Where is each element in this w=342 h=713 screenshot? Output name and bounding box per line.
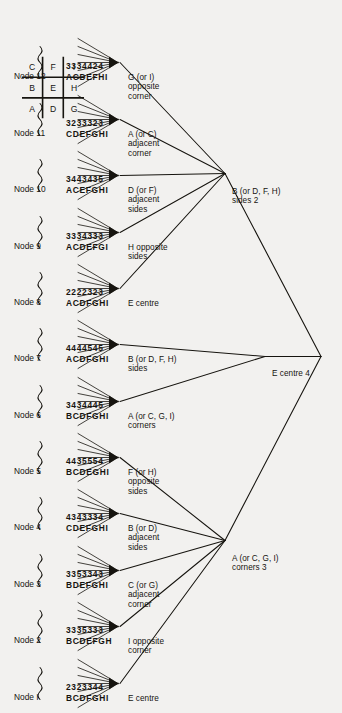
leaf-letters-4: CDEFGHI — [66, 523, 109, 533]
leaf-numbers-9: 3334333 — [66, 231, 104, 241]
grid-cell-A: A — [22, 98, 42, 118]
leaf-letters-11: CDEFGHI — [66, 129, 109, 139]
leaf-numbers-6: 3434445 — [66, 400, 104, 410]
leaf-letters-6: BCDFGHI — [66, 411, 109, 421]
leaf-node-name-11: Node 11 — [14, 127, 45, 137]
leaf-node-name-1: Node I — [14, 691, 39, 701]
leaf-node-name-12: Node 12 — [14, 70, 46, 80]
leaf-letters-2: BCDEFGH — [66, 636, 112, 646]
leaf-numbers-10: 3443435 — [66, 174, 104, 184]
leaf-label-6: A (or C, G, I) corners — [128, 411, 175, 430]
leaf-numbers-8: 2222323 — [66, 287, 104, 297]
internal-node-corners: A (or C, G, I) corners 3 — [232, 553, 279, 572]
leaf-letters-1: BCDFGHI — [66, 693, 109, 703]
grid-cell-G: G — [64, 98, 84, 118]
leaf-label-4: B (or D) adjacent sides — [128, 523, 159, 551]
leaf-node-name-7: Node 7 — [14, 352, 41, 362]
leaf-letters-3: BDEFGHI — [66, 580, 109, 590]
leaf-node-name-8: Node 8 — [14, 296, 41, 306]
leaf-label-9: H opposite sides — [128, 242, 168, 261]
leaf-node-name-6: Node 6 — [14, 409, 41, 419]
leaf-numbers-2: 3335333 — [66, 625, 104, 635]
leaf-label-1: E centre — [128, 693, 159, 702]
leaf-letters-5: BCDEGHI — [66, 467, 110, 477]
grid-cell-E: E — [43, 77, 63, 97]
leaf-label-3: C (or G) adjacent corner — [128, 580, 159, 608]
leaf-numbers-11: 3233323 — [66, 118, 104, 128]
leaf-numbers-12: 3334424 — [66, 61, 104, 71]
leaf-letters-10: ACEFGHI — [66, 185, 109, 195]
grid-cell-F: F — [43, 56, 63, 76]
leaf-node-name-2: Node 2 — [14, 634, 41, 644]
leaf-node-name-9: Node 9 — [14, 240, 41, 250]
leaf-numbers-1: 2323344 — [66, 682, 104, 692]
leaf-label-7: B (or D, F, H) sides — [128, 354, 176, 373]
leaf-node-name-5: Node 5 — [14, 465, 41, 475]
leaf-label-10: D (or F) adjacent sides — [128, 185, 159, 213]
game-tree-figure: A B C D E F G H I A (or C, G, I) corners… — [0, 0, 342, 713]
leaf-letters-9: ACDEFGI — [66, 242, 109, 252]
internal-node-sides: B (or D, F, H) sides 2 — [232, 186, 280, 205]
leaf-numbers-7: 4444545 — [66, 343, 104, 353]
leaf-node-name-3: Node 3 — [14, 578, 41, 588]
leaf-numbers-3: 3353343 — [66, 569, 104, 579]
leaf-numbers-4: 4343334 — [66, 512, 104, 522]
leaf-label-2: I opposite corner — [128, 636, 164, 655]
leaf-label-5: F (or H) opposite sides — [128, 467, 159, 495]
internal-node-centre: E centre 4 — [272, 368, 310, 377]
leaf-letters-7: ACDFGHI — [66, 354, 109, 364]
leaf-node-name-4: Node 4 — [14, 521, 41, 531]
leaf-numbers-5: 4435554 — [66, 456, 104, 466]
leaf-node-name-10: Node 10 — [14, 183, 46, 193]
leaf-letters-8: ACDFGHI — [66, 298, 109, 308]
leaf-label-8: E centre — [128, 298, 159, 307]
grid-cell-D: D — [43, 98, 63, 118]
leaf-label-12: G (or I) opposite corner — [128, 72, 159, 100]
leaf-label-11: A (or C) adjacent corner — [128, 129, 159, 157]
leaf-letters-12: ACDEFHI — [66, 72, 108, 82]
